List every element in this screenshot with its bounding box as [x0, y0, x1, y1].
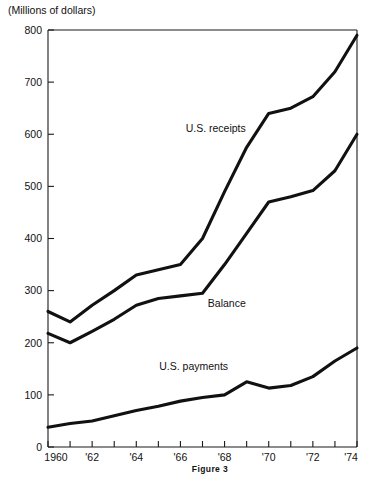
y-axis-tick-label: 300 [24, 284, 42, 296]
y-axis-tick-label: 700 [24, 76, 42, 88]
y-axis-tick-group: 0100200300400500600700800 [24, 24, 54, 453]
y-axis-tick-label: 0 [36, 441, 42, 453]
x-axis-tick-label: '70 [262, 451, 276, 463]
series-label-u-s-payments: U.S. payments [159, 360, 228, 372]
y-axis-tick-label: 200 [24, 337, 42, 349]
figure-caption: Figure 3 [192, 464, 228, 474]
x-axis-tick-label: '68 [218, 451, 232, 463]
x-axis-tick-label: '62 [85, 451, 99, 463]
y-axis-title: (Millions of dollars) [8, 4, 96, 16]
line-chart: (Millions of dollars) 010020030040050060… [0, 0, 374, 487]
series-label-balance: Balance [208, 297, 246, 309]
y-axis-tick-label: 800 [24, 24, 42, 36]
x-axis-tick-group: 1960'62'64'66'68'70'72'74 [44, 441, 358, 463]
x-axis-tick-label: '66 [174, 451, 188, 463]
figure-container: (Millions of dollars) 010020030040050060… [0, 0, 374, 487]
x-axis-tick-label: '72 [306, 451, 320, 463]
x-axis-tick-label: '74 [344, 451, 358, 463]
y-axis-tick-label: 500 [24, 180, 42, 192]
series-label-u-s-receipts: U.S. receipts [186, 122, 246, 134]
series-label-group: U.S. receiptsBalanceU.S. payments [159, 122, 246, 372]
y-axis-tick-label: 100 [24, 389, 42, 401]
x-axis-tick-label: '64 [129, 451, 143, 463]
x-axis-tick-label: 1960 [44, 451, 68, 463]
y-axis-tick-label: 600 [24, 128, 42, 140]
series-line-u-s-receipts [48, 35, 357, 322]
y-axis-tick-label: 400 [24, 232, 42, 244]
